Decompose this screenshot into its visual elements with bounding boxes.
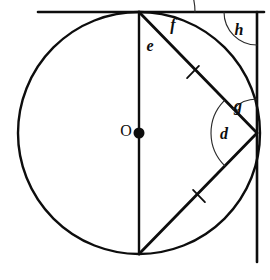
diagram-canvas: O efgdh bbox=[0, 0, 270, 280]
angle-label-h: h bbox=[235, 21, 244, 38]
lower-chord-line bbox=[139, 133, 257, 254]
angle-label-e: e bbox=[146, 37, 153, 54]
angle-arc-f bbox=[178, 0, 195, 12]
center-point-dot bbox=[134, 128, 145, 139]
center-label-o: O bbox=[120, 122, 132, 139]
geometry-figure: O efgdh bbox=[0, 0, 270, 280]
angle-label-g: g bbox=[233, 97, 242, 115]
tick-mark-group bbox=[187, 66, 205, 202]
angle-label-d: d bbox=[220, 125, 229, 142]
